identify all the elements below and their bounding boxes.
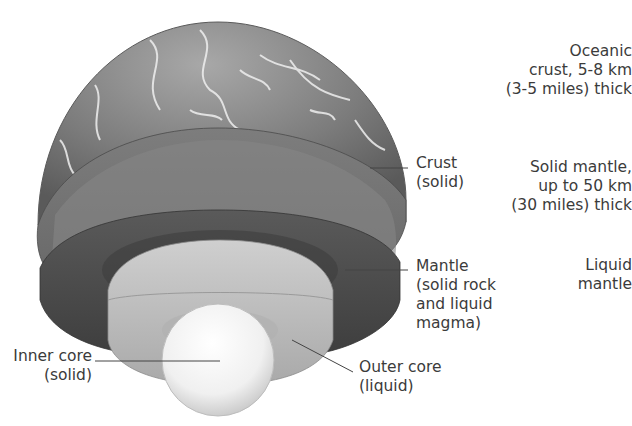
mantle-label: Mantle (solid rock and liquid magma): [416, 257, 496, 333]
solid-mantle-note: Solid mantle, up to 50 km (30 miles) thi…: [511, 158, 632, 215]
liquid-mantle-note: Liquid mantle: [578, 256, 632, 294]
inner-core: [162, 304, 278, 416]
outer-core-label: Outer core (liquid): [359, 358, 442, 396]
inner-core-label: Inner core (solid): [13, 347, 92, 385]
crust-label: Crust (solid): [416, 154, 464, 192]
oceanic-crust-note: Oceanic crust, 5-8 km (3-5 miles) thick: [506, 42, 632, 99]
